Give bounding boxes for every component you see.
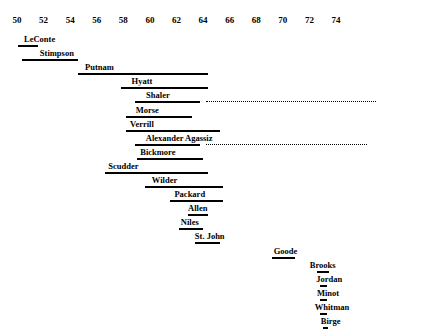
timeline-bar (323, 327, 328, 329)
axis-tick-62: 62 (172, 14, 181, 26)
axis-tick-74: 74 (332, 14, 341, 26)
timeline-row: Jordan (0, 272, 429, 287)
x-axis: 50525456586062646668707274 (0, 14, 429, 28)
row-label: Hyatt (132, 77, 153, 86)
row-label: Minot (317, 289, 339, 298)
row-label: Shaler (146, 91, 170, 100)
timeline-row: Hyatt (0, 74, 429, 89)
row-label: Wilder (152, 176, 177, 185)
axis-tick-60: 60 (145, 14, 154, 26)
axis-tick-68: 68 (252, 14, 261, 26)
row-label: LeConte (24, 35, 55, 44)
row-label: Whitman (315, 303, 349, 312)
row-label: Birge (321, 317, 341, 326)
row-label: Stimpson (40, 49, 74, 58)
timeline-row: Bickmore (0, 145, 429, 160)
row-label: Jordan (316, 275, 342, 284)
row-label: Putnam (85, 63, 114, 72)
timeline-row: Goode (0, 244, 429, 259)
row-label: St. John (195, 232, 225, 241)
axis-tick-54: 54 (66, 14, 75, 26)
axis-tick-52: 52 (39, 14, 48, 26)
timeline-row: Packard (0, 187, 429, 202)
timeline-chart: 50525456586062646668707274 LeConteStimps… (0, 0, 429, 333)
row-label: Bickmore (140, 148, 175, 157)
row-label: Allen (188, 204, 207, 213)
axis-tick-50: 50 (13, 14, 22, 26)
timeline-row: Shaler (0, 88, 429, 103)
axis-tick-66: 66 (225, 14, 234, 26)
timeline-row: St. John (0, 229, 429, 244)
row-label: Morse (136, 106, 159, 115)
axis-tick-56: 56 (92, 14, 101, 26)
row-label: Goode (274, 247, 298, 256)
timeline-row: Allen (0, 201, 429, 216)
timeline-row: Niles (0, 215, 429, 230)
timeline-row: Stimpson (0, 46, 429, 61)
axis-tick-72: 72 (305, 14, 314, 26)
row-label: Brooks (310, 261, 336, 270)
timeline-row: Alexander Agassiz (0, 131, 429, 146)
row-label: Niles (181, 218, 199, 227)
timeline-row: Minot (0, 286, 429, 301)
timeline-row: Verrill (0, 117, 429, 132)
row-label: Alexander Agassiz (146, 134, 213, 143)
timeline-row: Wilder (0, 173, 429, 188)
row-label: Packard (174, 190, 205, 199)
timeline-row: Putnam (0, 60, 429, 75)
timeline-row: Whitman (0, 300, 429, 315)
axis-tick-70: 70 (278, 14, 287, 26)
row-label: Verrill (130, 120, 154, 129)
timeline-row: Scudder (0, 159, 429, 174)
timeline-row: Birge (0, 314, 429, 329)
row-label: Scudder (108, 162, 138, 171)
axis-tick-58: 58 (119, 14, 128, 26)
timeline-row: LeConte (0, 32, 429, 47)
axis-tick-64: 64 (199, 14, 208, 26)
timeline-row: Brooks (0, 258, 429, 273)
timeline-row: Morse (0, 103, 429, 118)
